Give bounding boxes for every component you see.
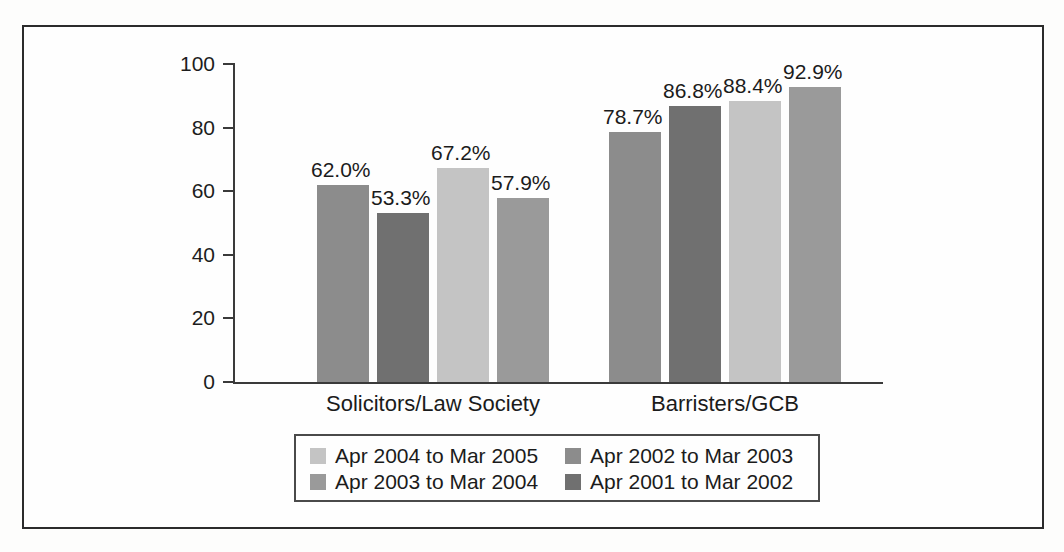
- legend-item[interactable]: Apr 2001 to Mar 2002: [565, 469, 820, 495]
- bar: [609, 132, 661, 382]
- y-axis-tick-label: 40: [155, 244, 215, 265]
- y-axis-tick-label: 20: [155, 307, 215, 328]
- bar: [377, 213, 429, 382]
- y-axis-tick-label: 80: [155, 117, 215, 138]
- bar: [669, 106, 721, 382]
- bar: [729, 101, 781, 382]
- bar: [789, 87, 841, 382]
- bar-value-label: 78.7%: [603, 106, 663, 127]
- chart-frame: 020406080100 62.0%53.3%67.2%57.9%78.7%86…: [22, 25, 1044, 529]
- bar-value-label: 86.8%: [663, 80, 723, 101]
- legend-swatch-icon: [565, 474, 581, 490]
- bar-value-label: 62.0%: [311, 159, 371, 180]
- legend-swatch-icon: [310, 474, 326, 490]
- x-axis-category-label: Solicitors/Law Society: [283, 391, 583, 417]
- bar: [497, 198, 549, 382]
- legend-grid: Apr 2004 to Mar 2005Apr 2002 to Mar 2003…: [296, 443, 818, 495]
- bar-value-label: 53.3%: [371, 187, 431, 208]
- y-axis-tick-label: 0: [155, 371, 215, 392]
- y-axis-tick-label: 60: [155, 180, 215, 201]
- chart-legend: Apr 2004 to Mar 2005Apr 2002 to Mar 2003…: [294, 434, 820, 502]
- legend-item[interactable]: Apr 2003 to Mar 2004: [310, 469, 565, 495]
- legend-item-label: Apr 2003 to Mar 2004: [335, 470, 538, 494]
- legend-item[interactable]: Apr 2004 to Mar 2005: [310, 443, 565, 469]
- bar-value-label: 67.2%: [431, 142, 491, 163]
- bar-value-label: 92.9%: [783, 61, 843, 82]
- bar-value-label: 88.4%: [723, 75, 783, 96]
- bar-value-label: 57.9%: [491, 172, 551, 193]
- legend-swatch-icon: [310, 448, 326, 464]
- bar: [317, 185, 369, 382]
- legend-item-label: Apr 2004 to Mar 2005: [335, 444, 538, 468]
- x-axis-line: [233, 382, 883, 384]
- legend-swatch-icon: [565, 448, 581, 464]
- legend-item-label: Apr 2002 to Mar 2003: [590, 444, 793, 468]
- x-axis-category-label: Barristers/GCB: [575, 391, 875, 417]
- y-axis-tick-label: 100: [155, 53, 215, 74]
- legend-item[interactable]: Apr 2002 to Mar 2003: [565, 443, 820, 469]
- legend-item-label: Apr 2001 to Mar 2002: [590, 470, 793, 494]
- bars-layer: 62.0%53.3%67.2%57.9%78.7%86.8%88.4%92.9%: [233, 64, 883, 382]
- bar: [437, 168, 489, 382]
